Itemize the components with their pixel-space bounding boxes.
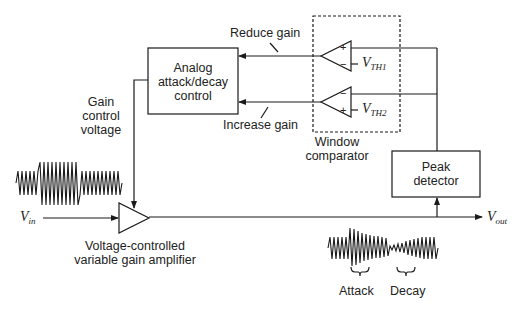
increase-gain-label: Increase gain	[223, 118, 298, 132]
input-waveform	[16, 162, 122, 205]
comparator-2-triangle	[321, 87, 351, 117]
attack-brace	[351, 267, 369, 276]
peak-detector-line1: Peak	[392, 160, 480, 174]
comparator-1-triangle	[321, 41, 351, 71]
vth2-label: VTH2	[362, 102, 387, 120]
comparator-2-minus: −	[340, 86, 346, 100]
peak-detector-line2: detector	[392, 174, 480, 188]
window-comparator-label: Window comparator	[292, 135, 382, 163]
decay-label: Decay	[390, 284, 425, 298]
reduce-gain-label: Reduce gain	[230, 26, 300, 40]
vin-main: V	[20, 209, 29, 224]
gain-control-line1: Gain	[56, 95, 146, 109]
vth1-label: VTH1	[362, 56, 387, 74]
peak-detector-label: Peak detector	[392, 160, 480, 188]
gain-control-line2: control	[56, 109, 146, 123]
amplifier-line2: variable gain amplifier	[60, 253, 210, 267]
vth2-main: V	[362, 101, 371, 116]
gain-control-line3: voltage	[56, 123, 146, 137]
vth1-main: V	[362, 55, 371, 70]
comparator-1-minus: −	[340, 57, 346, 71]
attack-decay-line3: control	[148, 89, 238, 103]
attack-decay-line1: Analog	[148, 61, 238, 75]
output-waveform	[328, 228, 438, 266]
comparator-1-plus: +	[340, 40, 346, 54]
amplifier-label: Voltage-controlled variable gain amplifi…	[60, 239, 210, 267]
attack-decay-label: Analog attack/decay control	[148, 61, 238, 103]
amplifier-line1: Voltage-controlled	[60, 239, 210, 253]
vout-sub: out	[496, 216, 508, 226]
decay-brace	[397, 267, 415, 276]
window-comparator-line2: comparator	[292, 149, 382, 163]
vth2-sub: TH2	[371, 108, 387, 118]
vout-main: V	[487, 209, 496, 224]
attack-label: Attack	[339, 284, 374, 298]
vin-sub: in	[29, 216, 36, 226]
window-comparator-line1: Window	[292, 135, 382, 149]
vout-label: Vout	[487, 210, 507, 228]
vin-label: Vin	[20, 210, 36, 228]
vth1-sub: TH1	[371, 62, 387, 72]
attack-decay-line2: attack/decay	[148, 75, 238, 89]
comparator-2-plus: +	[340, 103, 346, 117]
gain-control-label: Gain control voltage	[56, 95, 146, 137]
